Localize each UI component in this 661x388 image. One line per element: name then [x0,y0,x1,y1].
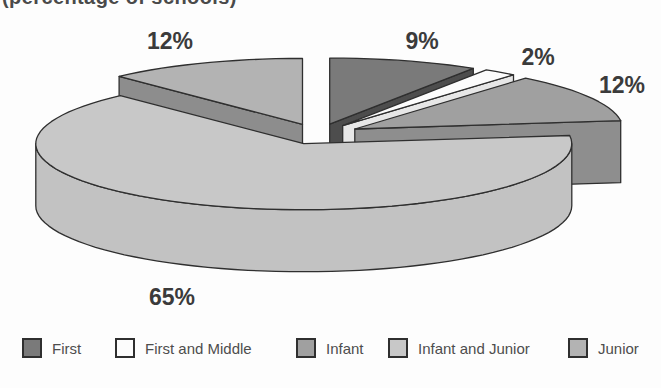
legend-item-junior: Junior [568,338,639,358]
slice-value-label-first: 9% [405,28,438,55]
chart-legend: First First and Middle Infant Infant and… [0,338,661,368]
legend-swatch-first-and-middle [115,338,135,358]
legend-item-infant: Infant [296,338,364,358]
legend-swatch-first [22,338,42,358]
slice-value-label-infant: 12% [599,72,645,99]
legend-item-first: First [22,338,81,358]
pie-chart [0,0,661,388]
legend-swatch-junior [568,338,588,358]
legend-item-first-and-middle: First and Middle [115,338,252,358]
legend-swatch-infant-and-junior [388,338,408,358]
legend-swatch-infant [296,338,316,358]
legend-label-infant: Infant [326,340,364,357]
slice-value-label-junior: 12% [147,28,193,55]
legend-item-infant-and-junior: Infant and Junior [388,338,530,358]
legend-label-first-and-middle: First and Middle [145,340,252,357]
pie-chart-figure: (percentage of schools) 9% 2% 12% 65% 12… [0,0,661,388]
slice-value-label-infant-and-junior: 65% [149,284,195,311]
legend-label-first: First [52,340,81,357]
legend-label-junior: Junior [598,340,639,357]
slice-value-label-first-and-middle: 2% [521,44,554,71]
legend-label-infant-and-junior: Infant and Junior [418,340,530,357]
